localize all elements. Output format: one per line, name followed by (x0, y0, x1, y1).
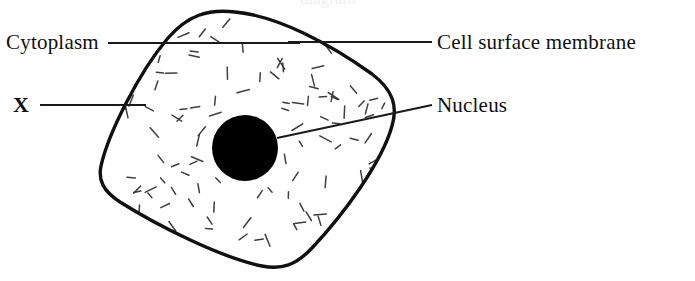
label-cytoplasm: Cytoplasm (6, 32, 99, 53)
label-cell-surface-membrane: Cell surface membrane (437, 32, 636, 53)
nucleus-circle (212, 115, 278, 181)
label-nucleus: Nucleus (437, 95, 507, 116)
cell-diagram-figure: diagram Cytoplasm Cell surface membrane … (0, 0, 695, 281)
label-unknown-structure-x: X (13, 94, 29, 116)
